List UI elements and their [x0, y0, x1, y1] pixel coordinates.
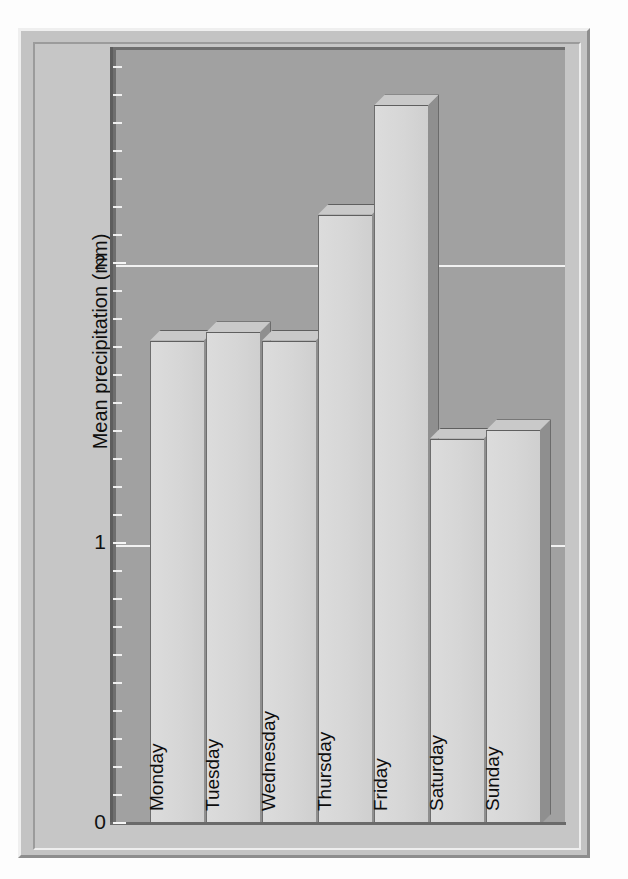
y-tick-0.9: [113, 570, 122, 572]
y-tick-2.7: [113, 66, 122, 68]
y-tick-1: [113, 542, 126, 544]
bar-label-sunday: Sunday: [482, 747, 504, 811]
y-tick-2.6: [113, 94, 122, 96]
y-tick-0.5: [113, 682, 122, 684]
y-tick-1.6: [113, 374, 122, 376]
y-tick-label-0: 0: [82, 811, 106, 832]
plot-inner: MondayTuesdayWednesdayThursdayFridaySatu…: [116, 50, 565, 822]
bar-sunday: Sunday: [486, 419, 551, 822]
plot-area: MondayTuesdayWednesdayThursdayFridaySatu…: [113, 47, 565, 822]
bar-label-saturday: Saturday: [426, 735, 448, 811]
y-tick-2.4: [113, 150, 122, 152]
bar-label-thursday: Thursday: [314, 732, 336, 811]
y-tick-0.7: [113, 626, 122, 628]
bar-label-holder: Sunday: [504, 419, 522, 822]
y-tick-2.5: [113, 122, 122, 124]
y-tick-0.3: [113, 738, 122, 740]
y-tick-2.3: [113, 178, 122, 180]
y-tick-1.8: [113, 318, 122, 320]
bar-label-monday: Monday: [146, 743, 168, 811]
bar-label-holder: Monday: [168, 330, 186, 822]
y-tick-1.2: [113, 486, 122, 488]
y-tick-2.1: [113, 234, 122, 236]
y-axis-spine: [110, 47, 113, 825]
y-tick-0.2: [113, 766, 122, 768]
y-tick-0.1: [113, 794, 122, 796]
y-tick-2: [113, 262, 126, 264]
bar-label-holder: Thursday: [336, 204, 354, 822]
y-tick-0: [113, 822, 126, 824]
y-tick-1.4: [113, 430, 122, 432]
bar-label-holder: Wednesday: [280, 330, 298, 822]
y-tick-1.9: [113, 290, 122, 292]
bar-side-face: [540, 419, 551, 822]
y-tick-label-1: 1: [82, 531, 106, 552]
y-tick-2.2: [113, 206, 122, 208]
y-tick-0.4: [113, 710, 122, 712]
y-tick-label-group: 2 1 0: [78, 0, 106, 879]
bar-label-wednesday: Wednesday: [258, 711, 280, 811]
y-tick-1.7: [113, 346, 122, 348]
y-tick-1.1: [113, 514, 122, 516]
y-tick-1.5: [113, 402, 122, 404]
y-tick-1.3: [113, 458, 122, 460]
y-tick-0.6: [113, 654, 122, 656]
bar-label-friday: Friday: [370, 758, 392, 811]
y-tick-0.8: [113, 598, 122, 600]
x-axis-spine: [110, 822, 566, 825]
y-tick-label-2: 2: [82, 251, 106, 272]
bar-label-holder: Saturday: [448, 428, 466, 822]
bar-label-holder: Tuesday: [224, 321, 242, 822]
bar-label-tuesday: Tuesday: [202, 739, 224, 811]
bar-label-holder: Friday: [392, 94, 410, 822]
